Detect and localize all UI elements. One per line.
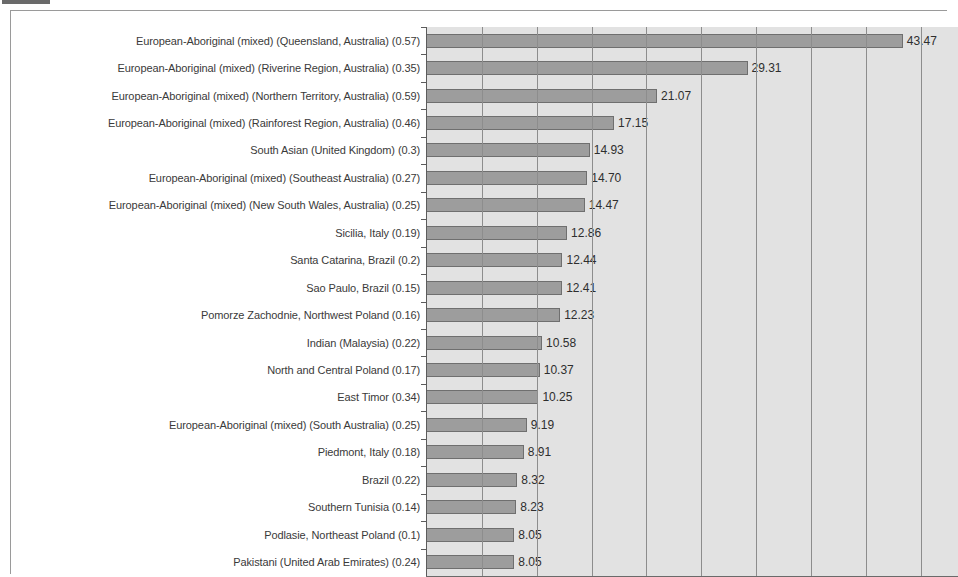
bar [426, 116, 614, 130]
bar [426, 198, 585, 212]
bar-row: Southern Tunisia (0.14)8.23 [33, 493, 958, 520]
category-label: European-Aboriginal (mixed) (Queensland,… [33, 35, 426, 47]
category-label: European-Aboriginal (mixed) (Southeast A… [33, 172, 426, 184]
bar [426, 336, 542, 350]
bar-row: European-Aboriginal (mixed) (New South W… [33, 192, 958, 219]
bar-value-label: 8.05 [514, 528, 541, 542]
bar-value-label: 8.23 [516, 500, 543, 514]
category-label: Pomorze Zachodnie, Northwest Poland (0.1… [33, 309, 426, 321]
bar-row: European-Aboriginal (mixed) (Northern Te… [33, 82, 958, 109]
bar-track: 8.23 [426, 493, 958, 520]
axis-tick [421, 329, 426, 330]
bar-chart: European-Aboriginal (mixed) (Queensland,… [33, 27, 958, 575]
axis-tick [421, 494, 426, 495]
axis-tick [421, 27, 426, 28]
bar-track: 10.25 [426, 384, 958, 411]
category-label: North and Central Poland (0.17) [33, 364, 426, 376]
bar-row: European-Aboriginal (mixed) (Queensland,… [33, 27, 958, 54]
axis-tick [421, 219, 426, 220]
category-label: European-Aboriginal (mixed) (Northern Te… [33, 90, 426, 102]
bar-value-label: 10.58 [542, 336, 576, 350]
category-label: European-Aboriginal (mixed) (New South W… [33, 199, 426, 211]
axis-tick [421, 109, 426, 110]
bar-value-label: 14.93 [590, 143, 624, 157]
bar-row: Podlasie, Northeast Poland (0.1)8.05 [33, 521, 958, 548]
bar-value-label: 8.32 [517, 473, 544, 487]
bar [426, 143, 590, 157]
bar-value-label: 43.47 [903, 34, 937, 48]
bar-row: Pakistani (United Arab Emirates) (0.24)8… [33, 548, 958, 575]
axis-tick [421, 137, 426, 138]
category-label: European-Aboriginal (mixed) (South Austr… [33, 419, 426, 431]
category-label: European-Aboriginal (mixed) (Riverine Re… [33, 62, 426, 74]
category-label: Sao Paulo, Brazil (0.15) [33, 282, 426, 294]
bar-track: 8.91 [426, 439, 958, 466]
bar [426, 363, 540, 377]
bar-row: Sao Paulo, Brazil (0.15)12.41 [33, 274, 958, 301]
bar-row: Pomorze Zachodnie, Northwest Poland (0.1… [33, 301, 958, 328]
bar-track: 8.32 [426, 466, 958, 493]
category-label: Piedmont, Italy (0.18) [33, 446, 426, 458]
bar-value-label: 21.07 [657, 89, 691, 103]
bar [426, 281, 562, 295]
bar-track: 9.19 [426, 411, 958, 438]
bar [426, 473, 517, 487]
bar-track: 8.05 [426, 521, 958, 548]
bar-value-label: 17.15 [614, 116, 648, 130]
category-label: Brazil (0.22) [33, 474, 426, 486]
bar-value-label: 8.91 [524, 445, 551, 459]
axis-tick [421, 439, 426, 440]
bar-row: Brazil (0.22)8.32 [33, 466, 958, 493]
bar-track: 10.37 [426, 356, 958, 383]
axis-tick [421, 411, 426, 412]
axis-tick [421, 356, 426, 357]
bar [426, 445, 524, 459]
cropped-ui-remnant [2, 0, 50, 4]
category-label: Pakistani (United Arab Emirates) (0.24) [33, 556, 426, 568]
bar-value-label: 12.44 [562, 253, 596, 267]
bar-row: European-Aboriginal (mixed) (Southeast A… [33, 164, 958, 191]
bar-track: 14.47 [426, 192, 958, 219]
axis-tick [421, 466, 426, 467]
bar-value-label: 10.25 [538, 390, 572, 404]
axis-tick [421, 521, 426, 522]
bar-row: North and Central Poland (0.17)10.37 [33, 356, 958, 383]
bar-row: Santa Catarina, Brazil (0.2)12.44 [33, 247, 958, 274]
category-label: Sicilia, Italy (0.19) [33, 227, 426, 239]
bar-row: South Asian (United Kingdom) (0.3)14.93 [33, 137, 958, 164]
category-label: Podlasie, Northeast Poland (0.1) [33, 529, 426, 541]
chart-frame: European-Aboriginal (mixed) (Queensland,… [10, 10, 947, 574]
bar-track: 8.05 [426, 548, 958, 575]
axis-tick [421, 164, 426, 165]
bar-value-label: 29.31 [748, 61, 782, 75]
bar-value-label: 9.19 [527, 418, 554, 432]
bar-track: 43.47 [426, 27, 958, 54]
category-label: South Asian (United Kingdom) (0.3) [33, 144, 426, 156]
axis-tick [421, 384, 426, 385]
bar-rows: European-Aboriginal (mixed) (Queensland,… [33, 27, 958, 575]
bar-track: 17.15 [426, 109, 958, 136]
axis-tick [421, 549, 426, 550]
category-label: Indian (Malaysia) (0.22) [33, 337, 426, 349]
bar-track: 21.07 [426, 82, 958, 109]
bar-value-label: 8.05 [514, 555, 541, 569]
bar [426, 308, 560, 322]
axis-tick [421, 54, 426, 55]
bar [426, 555, 514, 569]
bar-row: European-Aboriginal (mixed) (Rainforest … [33, 109, 958, 136]
bar-track: 10.58 [426, 329, 958, 356]
bar [426, 226, 567, 240]
bar-row: Indian (Malaysia) (0.22)10.58 [33, 329, 958, 356]
category-axis-line [426, 27, 427, 576]
axis-tick [421, 192, 426, 193]
bar-row: Sicilia, Italy (0.19)12.86 [33, 219, 958, 246]
bar [426, 390, 538, 404]
bar-value-label: 10.37 [540, 363, 574, 377]
bar-value-label: 12.86 [567, 226, 601, 240]
bar-value-label: 14.70 [587, 171, 621, 185]
bar [426, 34, 903, 48]
bar-track: 12.41 [426, 274, 958, 301]
category-label: Southern Tunisia (0.14) [33, 501, 426, 513]
bar-track: 14.70 [426, 164, 958, 191]
